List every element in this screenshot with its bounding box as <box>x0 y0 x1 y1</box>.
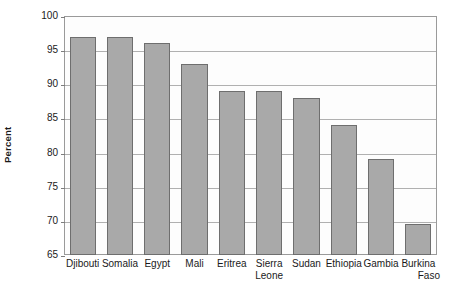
bar <box>219 91 245 255</box>
y-axis-tick-labels: 10095908580757065 <box>22 0 58 298</box>
bar <box>144 43 170 255</box>
y-tick-label: 100 <box>22 11 58 21</box>
bar <box>181 64 207 255</box>
y-tick-label: 85 <box>22 113 58 123</box>
y-axis-title: Percent <box>0 110 14 180</box>
bar <box>107 37 133 256</box>
x-tick-label-line2: Leone <box>247 270 292 282</box>
y-tick-label: 90 <box>22 79 58 89</box>
x-axis-category-labels: DjiboutiSomaliaEgyptMaliEritreaSierraLeo… <box>64 258 437 298</box>
y-tick-label: 65 <box>22 250 58 260</box>
bar <box>405 224 431 255</box>
bar <box>368 159 394 255</box>
bar <box>293 98 319 255</box>
bars-layer <box>64 16 437 255</box>
y-tick-label: 80 <box>22 148 58 158</box>
bar <box>331 125 357 255</box>
bar <box>70 37 96 256</box>
x-tick-label: BurkinaFaso <box>396 258 441 282</box>
y-tick-mark <box>61 256 65 257</box>
y-tick-label: 75 <box>22 182 58 192</box>
bar-chart: Percent 10095908580757065 DjiboutiSomali… <box>0 0 449 298</box>
bar <box>256 91 282 255</box>
x-tick-label-line2: Faso <box>396 270 441 282</box>
y-tick-label: 95 <box>22 45 58 55</box>
y-tick-label: 70 <box>22 216 58 226</box>
